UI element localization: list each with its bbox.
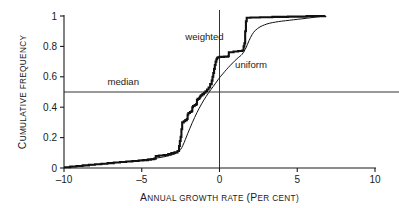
reference-lines bbox=[64, 10, 399, 168]
y-tick-label: 0.4 bbox=[43, 102, 57, 113]
y-tick-label: 0.2 bbox=[43, 132, 57, 143]
x-tick-label: 5 bbox=[294, 174, 300, 185]
x-tick-label: 0 bbox=[217, 174, 223, 185]
chart-figure: 00.20.40.60.81 –10–50510 medianweightedu… bbox=[0, 0, 399, 208]
x-axis-tick-labels: –10–50510 bbox=[56, 174, 381, 185]
x-tick-label: –5 bbox=[136, 174, 148, 185]
y-tick-label: 1 bbox=[51, 11, 57, 22]
chart-annotations: medianweighteduniform bbox=[108, 31, 268, 88]
annotation-weighted: weighted bbox=[184, 31, 223, 42]
y-axis-tick-labels: 00.20.40.60.81 bbox=[43, 11, 57, 174]
x-axis-ticks bbox=[64, 168, 375, 172]
y-axis-ticks bbox=[60, 16, 64, 168]
x-tick-label: –10 bbox=[56, 174, 73, 185]
annotation-median: median bbox=[108, 76, 139, 87]
x-tick-label: 10 bbox=[369, 174, 381, 185]
x-axis-title: ANNUAL GROWTH RATE (PER CENT) bbox=[140, 192, 299, 203]
y-tick-label: 0 bbox=[51, 163, 57, 174]
annotation-uniform: uniform bbox=[235, 59, 267, 70]
y-tick-label: 0.8 bbox=[43, 41, 57, 52]
y-axis-title: CUMULATIVE FREQUENCY bbox=[17, 35, 28, 150]
cdf-plot: 00.20.40.60.81 –10–50510 medianweightedu… bbox=[0, 0, 399, 208]
y-tick-label: 0.6 bbox=[43, 71, 57, 82]
